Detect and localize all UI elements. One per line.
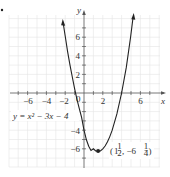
y-tick-label: −4 (70, 126, 80, 136)
y-axis-label: y (76, 5, 81, 15)
x-axis-label: x (160, 96, 165, 106)
x-tick-label: 2 (101, 96, 106, 106)
y-tick-label: 4 (76, 51, 81, 61)
x-tick-label: 6 (138, 96, 143, 106)
y-tick-label: −6 (70, 144, 80, 154)
y-axis-arrow-icon (82, 10, 86, 15)
parabola-graph: −6 −4 −2 2 6 6 4 2 −4 −6 0 x y y = x² − … (0, 0, 170, 177)
x-axis-arrow-icon (161, 91, 166, 95)
vertex-point (96, 149, 100, 153)
x-tick-label: −4 (42, 96, 52, 106)
y-tick-label: 6 (76, 32, 81, 42)
svg-text:(: ( (110, 146, 113, 156)
x-tick-label: −6 (23, 96, 33, 106)
curve-arrow-right-icon (131, 13, 135, 20)
bullet-marker (1, 9, 3, 11)
svg-text:, −6: , −6 (122, 146, 137, 156)
x-tick-label: −2 (59, 96, 69, 106)
equation-label: y = x² − 3x − 4 (12, 111, 69, 121)
y-tick-label: 2 (76, 70, 81, 80)
curve-arrow-left-icon (61, 19, 65, 26)
vertex-label: ( 1 1 2 , −6 1 4 ) (109, 141, 154, 159)
svg-text:): ) (149, 146, 152, 156)
